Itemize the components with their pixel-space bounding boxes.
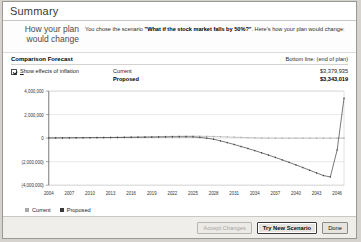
dialog-footer: Accept Changes Try New Scenario Done — [3, 216, 356, 238]
svg-text:2004: 2004 — [44, 189, 54, 196]
checkbox-checked-icon[interactable] — [11, 69, 17, 75]
bottom-line-amounts: Current $3,379,935 Proposed $3,343,019 — [93, 67, 348, 83]
show-inflation-checkbox[interactable]: Show effects of inflation — [11, 67, 93, 75]
show-inflation-label: Show effects of inflation — [20, 68, 79, 75]
amount-value-current: $3,379,935 — [263, 67, 348, 75]
intro-scenario-name: "What if the stock market falls by 50%?" — [145, 26, 252, 32]
amount-label-proposed: Proposed — [113, 75, 263, 83]
legend-swatch-current — [25, 208, 29, 212]
intro-body-suffix: . Here's how your plan would change: — [251, 26, 344, 32]
chart-legend: Current Proposed — [3, 203, 356, 216]
chart-canvas: 4,000,0002,000,0000(2,000,000)(4,000,000… — [9, 86, 350, 203]
intro-body: You chose the scenario "What if the stoc… — [85, 25, 348, 50]
svg-text:2,000,000: 2,000,000 — [24, 111, 44, 118]
try-new-scenario-button[interactable]: Try New Scenario — [257, 222, 317, 234]
svg-text:0: 0 — [41, 135, 44, 142]
svg-text:(2,000,000): (2,000,000) — [21, 158, 44, 165]
comparison-body: Show effects of inflation Current $3,379… — [11, 67, 348, 83]
comparison-forecast-label: Comparison Forecast — [11, 56, 73, 62]
intro-section: How your plan would change You chose the… — [3, 21, 356, 53]
svg-text:2037: 2037 — [271, 189, 281, 196]
svg-text:2019: 2019 — [147, 189, 157, 196]
amount-row-current: Current $3,379,935 — [113, 67, 348, 75]
legend-label-current: Current — [32, 207, 51, 213]
svg-text:2010: 2010 — [85, 189, 95, 196]
legend-item-proposed: Proposed — [60, 207, 91, 213]
comparison-divider — [11, 64, 348, 65]
svg-text:2016: 2016 — [126, 189, 136, 196]
legend-swatch-proposed — [60, 208, 64, 212]
accept-changes-button[interactable]: Accept Changes — [197, 222, 252, 234]
svg-text:2022: 2022 — [168, 189, 178, 196]
svg-text:2013: 2013 — [106, 189, 116, 196]
comparison-forecast-chart: 4,000,0002,000,0000(2,000,000)(4,000,000… — [9, 86, 350, 203]
svg-text:2034: 2034 — [250, 189, 260, 196]
page-title: Summary — [10, 5, 58, 17]
svg-text:2040: 2040 — [291, 189, 301, 196]
intro-body-prefix: You chose the scenario — [85, 26, 145, 32]
done-button[interactable]: Done — [322, 222, 348, 234]
summary-dialog: Summary How your plan would change You c… — [2, 1, 357, 239]
comparison-section: Comparison Forecast Bottom line: (end of… — [3, 53, 356, 83]
show-inflation-rest: how effects of inflation — [24, 68, 79, 74]
svg-text:2007: 2007 — [65, 189, 75, 196]
amount-row-proposed: Proposed $3,343,019 — [113, 75, 348, 83]
svg-text:2028: 2028 — [209, 189, 219, 196]
bottom-line-label: Bottom line: (end of plan) — [286, 56, 349, 62]
svg-text:2043: 2043 — [312, 189, 322, 196]
intro-heading: How your plan would change — [11, 25, 85, 50]
amount-value-proposed: $3,343,019 — [263, 75, 348, 83]
dialog-titlebar: Summary — [3, 2, 356, 21]
svg-text:4,000,000: 4,000,000 — [24, 88, 44, 95]
legend-item-current: Current — [25, 207, 51, 213]
legend-label-proposed: Proposed — [67, 207, 91, 213]
amount-label-current: Current — [113, 67, 263, 75]
svg-text:2046: 2046 — [332, 189, 342, 196]
svg-text:2025: 2025 — [188, 189, 198, 196]
comparison-header: Comparison Forecast Bottom line: (end of… — [11, 56, 348, 62]
intro-heading-line2: would change — [11, 35, 79, 45]
svg-text:2031: 2031 — [229, 189, 239, 196]
svg-text:(4,000,000): (4,000,000) — [21, 182, 44, 189]
